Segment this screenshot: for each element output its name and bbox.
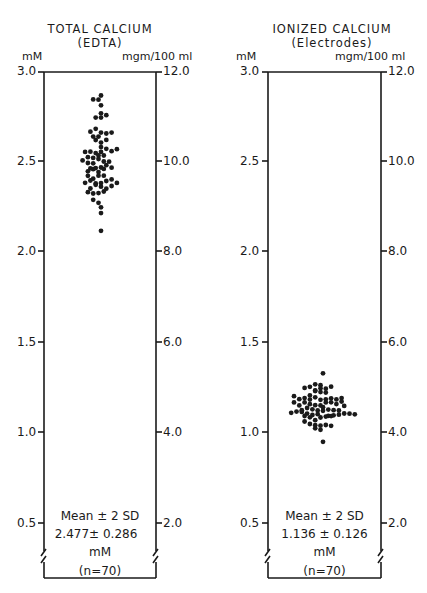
data-point <box>305 406 310 411</box>
data-point <box>299 410 304 415</box>
data-point <box>115 181 120 186</box>
data-point <box>109 184 114 189</box>
data-point <box>86 173 91 178</box>
data-point <box>83 180 88 185</box>
right-frame <box>262 72 387 578</box>
data-point <box>313 395 318 400</box>
data-point <box>104 131 109 136</box>
data-point <box>99 228 104 233</box>
data-point <box>99 205 104 210</box>
data-point <box>347 411 352 416</box>
data-point <box>302 400 307 405</box>
chart-canvas <box>0 0 427 593</box>
data-point <box>93 182 98 187</box>
data-point <box>99 103 104 108</box>
data-point <box>99 184 104 189</box>
data-point <box>96 200 101 205</box>
data-point <box>96 157 101 162</box>
left-stat-n: (n=70) <box>44 561 156 581</box>
left-data-points <box>80 93 119 233</box>
data-point <box>302 386 307 391</box>
data-point <box>99 145 104 150</box>
data-point <box>297 403 302 408</box>
data-point <box>96 173 101 178</box>
data-point <box>99 93 104 98</box>
data-point <box>88 149 93 154</box>
data-point <box>329 414 334 419</box>
data-point <box>313 426 318 431</box>
data-point <box>292 394 297 399</box>
data-point <box>294 409 299 414</box>
data-point <box>342 404 347 409</box>
data-point <box>297 397 302 402</box>
data-point <box>86 190 91 195</box>
data-point <box>86 161 91 166</box>
data-point <box>318 390 323 395</box>
data-point <box>318 415 323 420</box>
data-point <box>104 113 109 118</box>
data-point <box>302 396 307 401</box>
data-point <box>331 408 336 413</box>
data-point <box>308 397 313 402</box>
data-point <box>96 97 101 102</box>
data-point <box>321 371 326 376</box>
data-point <box>302 419 307 424</box>
data-point <box>109 130 114 135</box>
data-point <box>318 397 323 402</box>
data-point <box>86 155 91 160</box>
data-point <box>334 402 339 407</box>
data-point <box>292 400 297 405</box>
data-point <box>93 138 98 143</box>
data-point <box>99 111 104 116</box>
data-point <box>93 126 98 131</box>
data-point <box>321 408 326 413</box>
data-point <box>313 403 318 408</box>
left-stat-unit: mM <box>44 542 156 562</box>
data-point <box>101 167 106 172</box>
data-point <box>109 177 114 182</box>
data-point <box>91 191 96 196</box>
right-stat-unit: mM <box>268 542 381 562</box>
data-point <box>104 146 109 151</box>
data-point <box>99 115 104 120</box>
data-point <box>99 140 104 145</box>
data-point <box>99 130 104 135</box>
data-point <box>308 393 313 398</box>
left-stat-value: 2.477± 0.286 <box>40 524 152 544</box>
data-point <box>91 156 96 161</box>
data-point <box>93 115 98 120</box>
right-data-points <box>289 371 357 444</box>
data-point <box>96 191 101 196</box>
data-point <box>329 400 334 405</box>
data-point <box>329 423 334 428</box>
right-stat-value: 1.136 ± 0.126 <box>268 524 381 544</box>
data-point <box>308 415 313 420</box>
data-point <box>318 427 323 432</box>
data-point <box>334 397 339 402</box>
data-point <box>352 412 357 417</box>
data-point <box>101 173 106 178</box>
data-point <box>323 414 328 419</box>
data-point <box>308 422 313 427</box>
data-point <box>104 138 109 143</box>
data-point <box>83 150 88 155</box>
data-point <box>91 161 96 166</box>
data-point <box>109 149 114 154</box>
data-point <box>302 414 307 419</box>
data-point <box>86 169 91 174</box>
data-point <box>313 418 318 423</box>
data-point <box>91 97 96 102</box>
left-stat-label: Mean ± 2 SD <box>44 506 156 526</box>
data-point <box>88 129 93 134</box>
data-point <box>342 411 347 416</box>
data-point <box>323 423 328 428</box>
data-point <box>323 390 328 395</box>
data-point <box>318 423 323 428</box>
data-point <box>80 158 85 163</box>
data-point <box>104 179 109 184</box>
data-point <box>337 412 342 417</box>
data-point <box>88 178 93 183</box>
data-point <box>101 189 106 194</box>
data-point <box>115 147 120 152</box>
data-point <box>329 384 334 389</box>
